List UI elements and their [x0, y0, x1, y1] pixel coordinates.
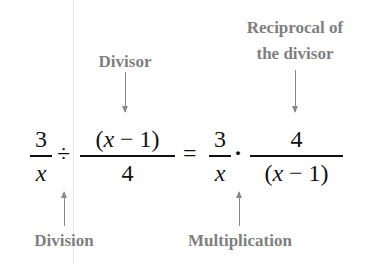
minus-one: − 1) [114, 126, 160, 152]
numerator: (x − 1) [80, 125, 175, 153]
denominator: 4 [80, 159, 175, 187]
reciprocal-label-line1: Reciprocal of [230, 15, 360, 41]
fraction-bar [30, 155, 52, 157]
rhs-fraction-reciprocal: 4 (x − 1) [250, 125, 343, 187]
numerator: 4 [250, 125, 343, 153]
numerator: 3 [209, 125, 231, 153]
division-label: Division [24, 228, 104, 254]
lhs-fraction-3-over-x: 3 x [30, 125, 52, 187]
multiplication-arrow-icon [239, 192, 240, 226]
minus-one: − 1) [283, 160, 329, 186]
multiplication-dot: · [234, 140, 242, 167]
rhs-fraction-3-over-x: 3 x [209, 125, 231, 187]
variable-x: x [272, 160, 283, 186]
numerator: 3 [30, 125, 52, 153]
reciprocal-label: Reciprocal of the divisor [230, 15, 360, 67]
fraction-bar [209, 155, 231, 157]
division-sign: ÷ [57, 140, 70, 167]
fraction-bar [250, 155, 343, 157]
fraction-bar [80, 155, 175, 157]
divisor-arrow-icon [125, 72, 126, 112]
denominator: x [30, 159, 52, 187]
multiplication-label: Multiplication [170, 228, 310, 254]
equals-sign: = [183, 140, 197, 167]
division-arrow-icon [64, 192, 65, 226]
reciprocal-arrow-icon [295, 70, 296, 112]
reciprocal-label-line2: the divisor [230, 41, 360, 67]
denominator: (x − 1) [250, 159, 343, 187]
lhs-fraction-divisor: (x − 1) 4 [80, 125, 175, 187]
variable-x: x [103, 126, 114, 152]
page-margin-line [73, 0, 74, 264]
denominator: x [209, 159, 231, 187]
